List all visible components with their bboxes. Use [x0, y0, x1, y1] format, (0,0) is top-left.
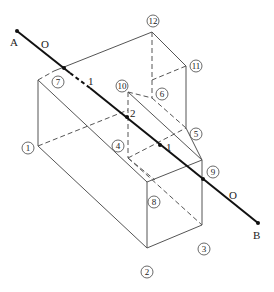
vertex-label-6: 6 — [156, 88, 168, 100]
label-b: B — [253, 229, 260, 241]
line-ab-hidden-seg — [70, 73, 90, 88]
vertex-label-4: 4 — [112, 140, 124, 152]
svg-text:6: 6 — [160, 89, 165, 99]
svg-text:9: 9 — [211, 167, 216, 177]
label-o-right: O — [229, 189, 237, 201]
edge-2-3 — [147, 225, 202, 248]
vertex-label-11: 11 — [190, 60, 202, 72]
vertex-label-1: 1 — [22, 142, 34, 154]
edge-top-back — [54, 32, 152, 71]
vertex-label-7: 7 — [52, 76, 64, 88]
label-a: A — [10, 36, 18, 48]
svg-text:8: 8 — [152, 197, 157, 207]
edge-7-top-hidden — [38, 71, 54, 80]
svg-text:11: 11 — [192, 61, 201, 71]
vertex-label-5: 5 — [190, 128, 202, 140]
svg-text:12: 12 — [149, 16, 158, 26]
svg-text:4: 4 — [116, 141, 121, 151]
vertex-label-12: 12 — [147, 15, 159, 27]
svg-text:5: 5 — [194, 129, 199, 139]
line-ab-middle — [90, 88, 202, 178]
vertex-label-8: 8 — [148, 196, 160, 208]
edge-12-11 — [152, 32, 186, 66]
vertex-label-9: 9 — [207, 166, 219, 178]
edge-6-5-hidden — [152, 98, 186, 128]
point-2 — [125, 115, 129, 119]
point-entry-7 — [62, 66, 66, 70]
label-o-left: O — [41, 38, 49, 50]
label-1-left: 1 — [88, 75, 94, 87]
label-1-right: 1 — [166, 141, 172, 153]
diagram-canvas: A B O O 1 2 1 1 2 3 4 5 6 7 8 9 10 — [0, 0, 274, 292]
vertex-label-10: 10 — [116, 80, 128, 92]
point-exit-9 — [201, 177, 205, 181]
edge-11-mid-hidden — [152, 66, 186, 80]
edge-10-diag — [128, 92, 202, 160]
point-b — [256, 221, 260, 225]
vertex-label-3: 3 — [198, 243, 210, 255]
edge-1-back-hidden — [38, 110, 128, 146]
solid-and-line-drawing: A B O O 1 2 1 1 2 3 4 5 6 7 8 9 10 — [0, 0, 274, 292]
vertex-label-2: 2 — [141, 266, 153, 278]
svg-text:7: 7 — [56, 77, 61, 87]
edge-1-2 — [38, 146, 147, 248]
label-2: 2 — [130, 107, 136, 119]
svg-text:10: 10 — [118, 81, 128, 91]
edge-7-8 — [38, 80, 147, 182]
svg-text:1: 1 — [26, 143, 31, 153]
svg-text:2: 2 — [145, 267, 150, 277]
point-a — [15, 29, 19, 33]
svg-text:3: 3 — [202, 244, 207, 254]
point-1 — [158, 143, 162, 147]
